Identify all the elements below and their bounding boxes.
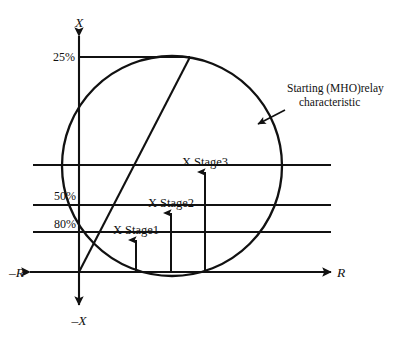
r-axis-positive-label: R [336,265,346,280]
callout-line-2: characteristic [299,96,360,108]
stage1-label: X Stage1 [113,223,159,237]
reach-label-50: 50% [54,189,76,203]
callout-line-1: Starting (MHO)relay [287,82,384,95]
callout-arrow [258,110,285,124]
reach-label-25: 25% [53,50,75,64]
stage3-label: X Stage3 [182,155,228,169]
stage2-label: X Stage2 [148,196,194,210]
impedance-diagram: X –X R –R 25% 50% 80% X Stage1 X Stage2 … [0,0,405,339]
r-axis-negative-label: –R [8,265,25,280]
reach-label-80: 80% [54,217,76,231]
x-axis-positive-label: X [74,15,84,30]
x-axis-negative-label: –X [71,313,88,328]
callout-annotation: Starting (MHO)relay characteristic [258,82,384,124]
stage-arrow-group [136,172,205,272]
diagram-canvas: X –X R –R 25% 50% 80% X Stage1 X Stage2 … [0,0,405,339]
